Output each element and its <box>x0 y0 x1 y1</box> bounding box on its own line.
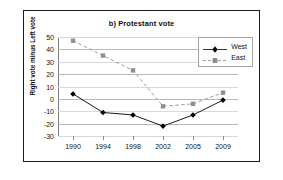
data-point-east <box>101 53 105 57</box>
legend-marker-west <box>202 41 228 52</box>
chart-legend: West East <box>198 37 253 67</box>
y-axis-tick-label: 10 <box>32 83 54 90</box>
x-axis-tick-label: 2009 <box>215 143 231 150</box>
data-point-west <box>190 112 196 118</box>
x-axis-tick <box>133 136 134 140</box>
x-axis-tick <box>103 136 104 140</box>
x-axis-tick-label: 1994 <box>95 143 111 150</box>
gridline <box>58 136 238 137</box>
series-line-west <box>73 94 223 126</box>
data-point-west <box>70 91 76 97</box>
x-axis-tick <box>163 136 164 140</box>
data-point-east <box>221 90 225 94</box>
y-axis-tick-label: -30 <box>32 133 54 140</box>
y-axis-tick-label: -10 <box>32 108 54 115</box>
data-point-west <box>130 112 136 118</box>
data-point-east <box>131 68 135 72</box>
y-axis-tick-label: 0 <box>32 95 54 102</box>
data-point-east <box>71 39 75 43</box>
y-axis-tick-label: -20 <box>32 120 54 127</box>
legend-label-east: East <box>231 54 245 61</box>
x-axis-tick-label: 1990 <box>65 143 81 150</box>
chart-title: b) Protestant vote <box>24 19 259 28</box>
legend-item-east: East <box>202 52 247 63</box>
legend-label-west: West <box>231 43 247 50</box>
data-point-east <box>191 102 195 106</box>
data-point-west <box>220 97 226 103</box>
y-axis-tick-label: 40 <box>32 46 54 53</box>
data-point-west <box>160 123 166 129</box>
chart-panel: b) Protestant vote Right vote minus Left… <box>23 10 260 162</box>
x-axis-tick-label: 2005 <box>185 143 201 150</box>
legend-item-west: West <box>202 41 247 52</box>
x-axis-tick <box>73 136 74 140</box>
data-point-east <box>161 104 165 108</box>
x-axis-tick-label: 1998 <box>125 143 141 150</box>
y-axis-tick-label: 20 <box>32 71 54 78</box>
x-axis-tick <box>223 136 224 140</box>
x-axis-tick-label: 2002 <box>155 143 171 150</box>
x-axis-tick <box>193 136 194 140</box>
data-point-west <box>100 110 106 116</box>
legend-marker-east <box>202 52 228 63</box>
y-axis-tick-label: 30 <box>32 58 54 65</box>
y-axis-label: Right vote minus Left vote <box>29 4 41 108</box>
y-axis-tick-label: 50 <box>32 34 54 41</box>
